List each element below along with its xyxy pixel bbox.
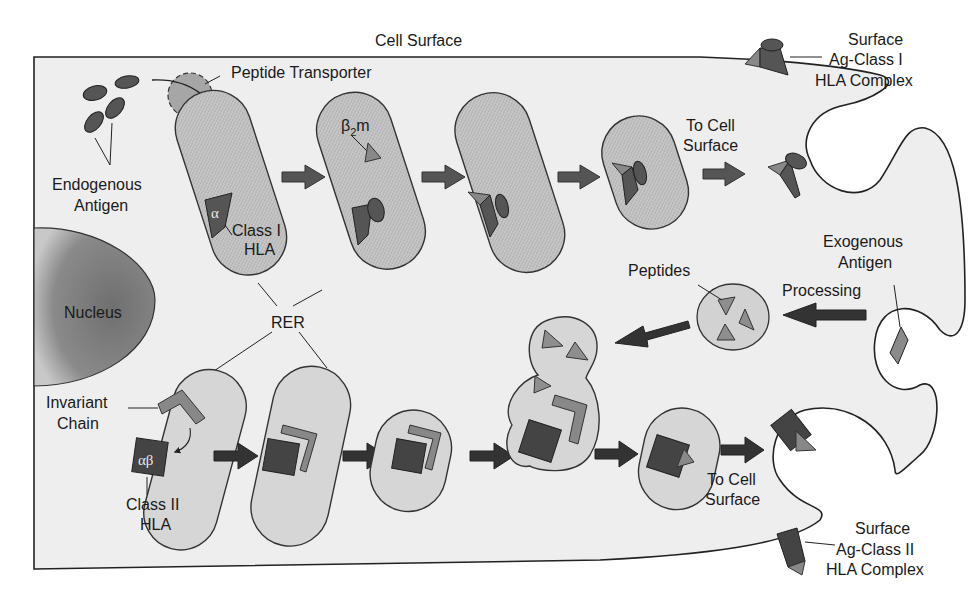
surface-class1-label-3: HLA Complex [815, 72, 913, 89]
exogenous-antigen-label-1: Exogenous [823, 233, 903, 250]
exogenous-antigen [890, 327, 908, 364]
class2-hla-label-2: HLA [140, 516, 171, 533]
to-cell-surface-bottom-label-1: To Cell [707, 471, 756, 488]
surface-class1-label-1: Surface [848, 31, 903, 48]
alpha-label: α [211, 205, 219, 221]
invariant-chain-label-2: Chain [57, 415, 99, 432]
class1-hla-label-2: HLA [244, 241, 275, 258]
surface-class2-label-1: Surface [855, 520, 910, 537]
cell-surface-label: Cell Surface [375, 32, 462, 49]
to-cell-surface-bottom-label-2: Surface [705, 491, 760, 508]
antigen-processing-diagram: Nucleus Cell Surface Endogenous Antigen … [0, 0, 973, 607]
invariant-chain-label-1: Invariant [46, 394, 108, 411]
surface-class2-label-2: Ag-Class II [836, 541, 914, 558]
endogenous-antigen-label-1: Endogenous [52, 176, 142, 193]
peptide-transporter-label: Peptide Transporter [231, 64, 372, 81]
class1-hla-label-1: Class I [232, 222, 281, 239]
to-cell-surface-top-label-1: To Cell [686, 117, 735, 134]
endogenous-antigen-label-2: Antigen [74, 197, 128, 214]
exogenous-antigen-label-2: Antigen [838, 254, 892, 271]
to-cell-surface-top-label-2: Surface [683, 137, 738, 154]
nucleus-label: Nucleus [64, 304, 122, 321]
processing-label: Processing [782, 282, 861, 299]
alphabeta-label: αβ [138, 452, 154, 468]
rer-label: RER [271, 314, 305, 331]
surface-class2-complex [777, 528, 805, 575]
peptides-label: Peptides [628, 262, 690, 279]
surface-class2-label-3: HLA Complex [826, 561, 924, 578]
surface-class1-label-2: Ag-Class I [829, 51, 903, 68]
class2-hla-label-1: Class II [126, 496, 179, 513]
